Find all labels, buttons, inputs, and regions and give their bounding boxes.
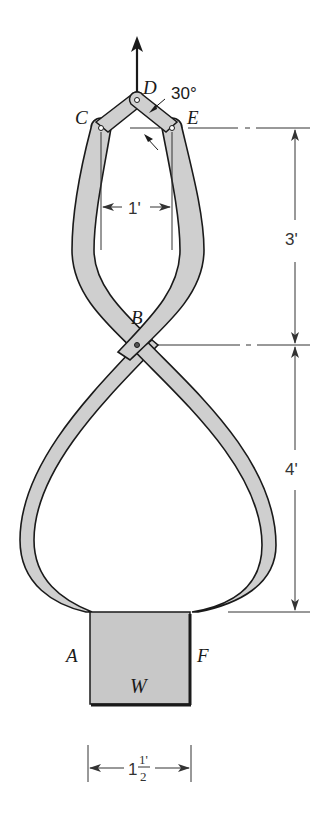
pin-e xyxy=(170,126,175,131)
label-a: A xyxy=(64,645,78,666)
label-d: D xyxy=(142,77,157,98)
label-f: F xyxy=(196,645,209,666)
label-e: E xyxy=(186,107,199,128)
lift-force-arrow xyxy=(131,36,143,100)
label-c: C xyxy=(75,107,88,128)
block-width-denominator: 2 xyxy=(140,769,147,784)
angle-label: 30° xyxy=(171,84,197,103)
tongs-diagram: D C E B A F W 30° 1' 3' 4' 1 1' 2 xyxy=(0,0,320,822)
label-b: B xyxy=(131,307,143,328)
pin-d xyxy=(135,98,140,103)
dim-label-4ft: 4' xyxy=(285,460,298,479)
member-right-lower xyxy=(124,330,276,612)
lower-members xyxy=(20,330,276,612)
dimension-1ft xyxy=(101,132,172,250)
member-left-lower xyxy=(20,335,158,612)
pin-b xyxy=(135,343,140,348)
pin-c xyxy=(99,126,104,131)
block-width-numerator: 1' xyxy=(139,752,148,767)
block-width-whole: 1 xyxy=(128,760,137,779)
dim-label-block-width: 1 1' 2 xyxy=(128,752,150,784)
label-w: W xyxy=(130,675,149,697)
dim-label-1ft: 1' xyxy=(128,199,141,218)
dim-label-3ft: 3' xyxy=(285,230,298,249)
